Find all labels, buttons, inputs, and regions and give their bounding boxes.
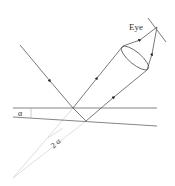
- lower-mirror-line: [13, 117, 157, 126]
- optics-diagram: Eye α 2 α: [0, 0, 175, 186]
- incoming-ray: [20, 45, 86, 121]
- eye-label: Eye: [129, 22, 143, 32]
- reflected-ray-2: [86, 70, 147, 121]
- eye-marker: [148, 18, 166, 42]
- reflected-ray-1: [73, 46, 123, 108]
- lens-to-eye-rays: [123, 27, 157, 70]
- alpha-label: α: [18, 109, 23, 118]
- lens: [118, 42, 152, 73]
